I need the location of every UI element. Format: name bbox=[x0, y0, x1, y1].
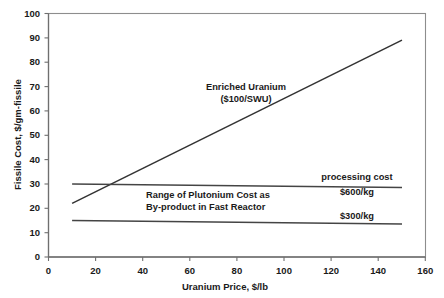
annotation-plutonium-range-line1: Range of Plutonium Cost as bbox=[146, 190, 270, 202]
chart-container: 100 90 80 70 60 50 40 30 20 10 0 0 20 40… bbox=[0, 0, 444, 298]
annotation-enriched-uranium: Enriched Uranium ($100/SWU) bbox=[206, 82, 286, 106]
annotation-processing-cost: processing cost bbox=[321, 172, 392, 184]
annotation-plutonium-range: Range of Plutonium Cost as By-product in… bbox=[146, 190, 270, 214]
annotation-cost-300: $300/kg bbox=[340, 211, 374, 223]
annotation-cost-600: $600/kg bbox=[340, 187, 374, 199]
x-tick-label-160: 160 bbox=[417, 266, 433, 276]
x-tick-label-40: 40 bbox=[137, 266, 148, 276]
y-tick-label-90: 90 bbox=[16, 33, 40, 43]
y-tick-label-100: 100 bbox=[16, 9, 40, 19]
y-axis-title: Fissile Cost, $/gm-fissile bbox=[13, 79, 23, 190]
x-tick-label-60: 60 bbox=[185, 266, 196, 276]
annotation-plutonium-range-line2: By-product in Fast Reactor bbox=[146, 202, 270, 214]
y-tick-label-20: 20 bbox=[16, 204, 40, 214]
x-tick-label-100: 100 bbox=[276, 266, 292, 276]
x-tick-label-20: 20 bbox=[90, 266, 101, 276]
x-tick-label-120: 120 bbox=[323, 266, 339, 276]
y-tick-label-80: 80 bbox=[16, 57, 40, 67]
plot-area bbox=[0, 0, 444, 298]
x-tick-label-0: 0 bbox=[46, 266, 51, 276]
x-tick-label-140: 140 bbox=[370, 266, 386, 276]
annotation-enriched-uranium-line1: Enriched Uranium bbox=[206, 82, 286, 94]
y-tick-label-0: 0 bbox=[16, 252, 40, 262]
y-tick-label-10: 10 bbox=[16, 228, 40, 238]
x-axis-title: Uranium Price, $/lb bbox=[182, 282, 268, 292]
annotation-enriched-uranium-line2: ($100/SWU) bbox=[206, 94, 286, 106]
x-tick-label-80: 80 bbox=[232, 266, 243, 276]
